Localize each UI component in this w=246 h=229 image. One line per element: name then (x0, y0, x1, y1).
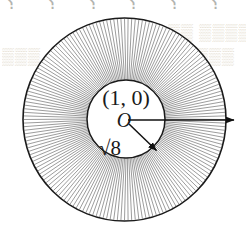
annulus-diagram-svg: (1, 0) O √8 (0, 0, 246, 229)
point-coordinate-label: (1, 0) (102, 85, 150, 110)
origin-label: O (117, 109, 131, 131)
radius-length-label: √8 (99, 136, 121, 160)
figure-root: ⸮ ⸮ ⸮ ⸮ ⸮ ⸮ ▒▒ ▒▒▒▒▒ ▒▒▒ ▒▒▒ (1, 0) O √8 (0, 0, 246, 229)
